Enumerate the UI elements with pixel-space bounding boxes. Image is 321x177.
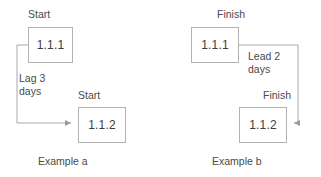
example-b-successor-endpoint-label: Finish [263, 89, 291, 101]
example-a-successor-task-id: 1.1.2 [88, 119, 116, 131]
example-a-successor-task-box[interactable]: 1.1.2 [78, 107, 126, 143]
example-a-predecessor-task-id: 1.1.1 [37, 39, 65, 51]
example-a-predecessor-endpoint-label: Start [28, 8, 50, 20]
example-b-successor-task-box[interactable]: 1.1.2 [239, 107, 287, 143]
example-a-lag-label: Lag 3 days [19, 72, 45, 99]
example-b-caption: Example b [212, 155, 262, 167]
example-b-lead-label-line1: Lead 2 [248, 50, 280, 63]
example-b-successor-task-id: 1.1.2 [249, 119, 277, 131]
example-b-predecessor-task-box[interactable]: 1.1.1 [191, 27, 239, 63]
example-a-lag-label-line2: days [19, 85, 45, 98]
example-a-caption: Example a [38, 155, 88, 167]
example-b-predecessor-endpoint-label: Finish [217, 8, 245, 20]
example-a-lag-label-line1: Lag 3 [19, 72, 45, 85]
diagram-canvas: Start 1.1.1 Lag 3 days Start 1.1.2 Examp… [0, 0, 321, 177]
example-b-lead-label-line2: days [248, 63, 280, 76]
example-b-lead-label: Lead 2 days [248, 50, 280, 77]
example-a-successor-endpoint-label: Start [78, 89, 100, 101]
example-a-predecessor-task-box[interactable]: 1.1.1 [28, 27, 73, 63]
example-b-predecessor-task-id: 1.1.1 [201, 39, 229, 51]
